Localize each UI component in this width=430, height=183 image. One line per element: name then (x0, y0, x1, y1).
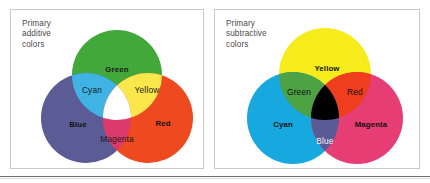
venn-diagram-subtractive: Yellow Cyan Magenta Green Red Blue (239, 24, 411, 166)
venn-diagram-additive: Green Blue Red Cyan Yellow Magenta (37, 26, 197, 166)
color-models-figure: Primary additive colors (0, 0, 430, 183)
footer-rule (0, 176, 430, 177)
panel-primary-subtractive-colors: Primary subtractive colors (214, 9, 420, 169)
panel-primary-additive-colors: Primary additive colors (10, 9, 204, 169)
footer-rule-shadow (0, 178, 430, 179)
